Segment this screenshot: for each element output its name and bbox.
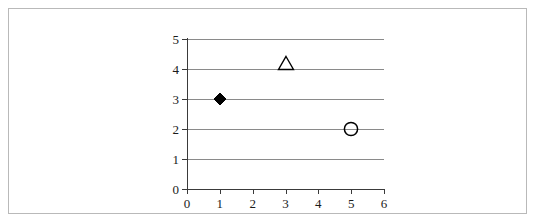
y-axis-tick-1 — [182, 159, 187, 160]
triangle-point — [277, 56, 294, 71]
y-axis-label-4: 4 — [173, 63, 180, 76]
x-axis-label-1: 1 — [217, 197, 224, 210]
x-axis-label-5: 5 — [348, 197, 355, 210]
x-axis-label-6: 6 — [381, 197, 388, 210]
gridline-y-5 — [187, 39, 384, 40]
y-axis-label-1: 1 — [173, 153, 180, 166]
x-axis-tick-4 — [318, 189, 319, 194]
y-axis-label-2: 2 — [173, 123, 180, 136]
y-axis-tick-3 — [182, 99, 187, 100]
x-axis-tick-5 — [351, 189, 352, 194]
chart-screenshot: 012345 0123456 — [0, 0, 537, 224]
x-axis-label-2: 2 — [249, 197, 256, 210]
x-axis-tick-6 — [384, 189, 385, 194]
plot-area: 012345 0123456 — [187, 39, 384, 189]
y-axis-label-0: 0 — [173, 183, 180, 196]
x-axis-label-0: 0 — [184, 197, 191, 210]
circle-point — [343, 121, 359, 137]
x-axis-tick-0 — [187, 189, 188, 194]
x-axis-tick-1 — [220, 189, 221, 194]
x-axis-label-3: 3 — [282, 197, 289, 210]
x-axis-label-4: 4 — [315, 197, 322, 210]
y-axis-line — [187, 38, 188, 190]
figure-frame: 012345 0123456 — [8, 8, 527, 214]
x-axis-tick-3 — [286, 189, 287, 194]
y-axis-tick-4 — [182, 69, 187, 70]
diamond-point — [213, 93, 226, 106]
y-axis-label-5: 5 — [173, 33, 180, 46]
y-axis-label-3: 3 — [173, 93, 180, 106]
x-axis-tick-2 — [253, 189, 254, 194]
y-axis-tick-2 — [182, 129, 187, 130]
gridline-y-1 — [187, 159, 384, 160]
y-axis-tick-5 — [182, 39, 187, 40]
